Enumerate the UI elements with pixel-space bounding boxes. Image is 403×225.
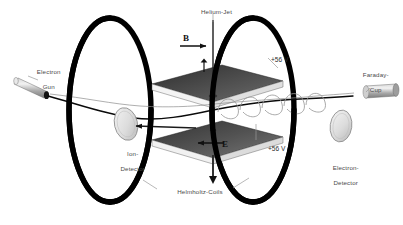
ion-trajectory-arrow <box>136 126 196 128</box>
magnetic-field-label: B <box>183 33 189 43</box>
apparatus-diagram: Electron Gun Helium-Jet B E +56 V +56 V … <box>0 0 403 225</box>
diagram-canvas <box>0 0 403 225</box>
electron-detector <box>328 109 354 144</box>
electron-gun <box>14 77 49 99</box>
electric-field-label: E <box>222 139 228 149</box>
upper-plate-voltage-label: +56 V <box>271 56 288 63</box>
lower-plate-voltage-label: +56 V <box>268 145 285 152</box>
faraday-cup <box>363 84 399 99</box>
ion-detector <box>111 105 141 142</box>
